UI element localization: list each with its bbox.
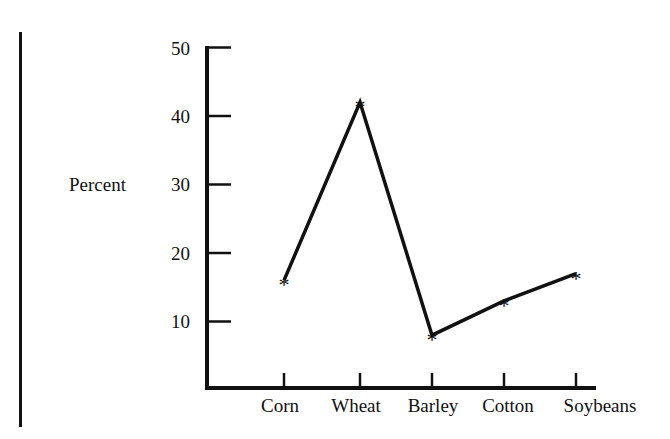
- data-point-marker: *: [279, 272, 290, 297]
- y-tick-label: 30: [171, 174, 190, 196]
- y-tick-label: 10: [171, 311, 190, 333]
- y-axis-label: Percent: [69, 174, 126, 196]
- x-category-label-cotton: Cotton: [482, 395, 534, 417]
- y-tick-label: 20: [171, 243, 190, 265]
- y-tick-label: 50: [171, 38, 190, 60]
- x-category-label-corn: Corn: [261, 395, 299, 417]
- x-category-label-wheat: Wheat: [331, 395, 381, 417]
- axes: [205, 46, 596, 390]
- x-category-label-soybeans: Soybeans: [564, 395, 637, 417]
- x-category-label-barley: Barley: [408, 395, 459, 417]
- y-tick-label: 40: [171, 106, 190, 128]
- data-point-marker: *: [571, 266, 582, 291]
- data-point-marker: *: [499, 293, 510, 318]
- line-chart: *****: [0, 0, 670, 439]
- data-point-marker: *: [355, 94, 366, 119]
- data-series: *****: [279, 94, 582, 352]
- series-line: [284, 102, 576, 335]
- data-point-marker: *: [427, 327, 438, 352]
